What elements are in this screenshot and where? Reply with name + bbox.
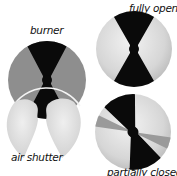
burner-label: burner: [30, 25, 63, 36]
partially-closed-label: partially closed: [107, 167, 177, 176]
air-shutter-label: air shutter: [11, 152, 63, 163]
fully-open-disc: [96, 10, 172, 88]
partially-closed-disc: [82, 79, 177, 176]
air-shutter-left-petal: [7, 99, 38, 158]
air-shutter-diagram: [0, 0, 177, 176]
fully-open-label: fully open: [129, 3, 177, 14]
air-shutter-right-petal: [46, 98, 81, 158]
